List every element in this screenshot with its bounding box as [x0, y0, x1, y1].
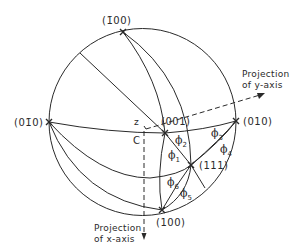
arc-bar100-001	[123, 32, 165, 133]
angle-label-phi3: ϕ3	[211, 128, 223, 144]
x-axis-label-line1: Projection	[94, 223, 142, 234]
pole-label-100: (100)	[156, 217, 185, 228]
pole-marker-bar100	[120, 29, 126, 35]
z-axis-stub	[144, 126, 146, 129]
phi-subscript: 6	[175, 183, 179, 191]
phi-symbol: ϕ	[211, 127, 219, 140]
pole-label-111: (111)	[199, 160, 228, 171]
angle-label-phi2: ϕ2	[175, 135, 187, 151]
y-axis-label-line2: of y-axis	[242, 80, 283, 91]
y-axis-label-line1: Projection	[242, 69, 290, 80]
z-axis-label: z	[134, 117, 139, 128]
angle-label-phi1: ϕ1	[168, 150, 180, 166]
x-axis-arrowhead	[142, 233, 147, 240]
phi-symbol: ϕ	[175, 134, 183, 147]
phi-symbol: ϕ	[167, 176, 175, 189]
pole-label-bar010: (01̄0)	[14, 117, 43, 128]
center-label: C	[133, 135, 140, 146]
angle-label-phi5: ϕ5	[180, 188, 192, 204]
arc-bar010-001-010	[49, 121, 236, 133]
phi-subscript: 4	[228, 150, 232, 158]
x-axis-label-line2: of x-axis	[94, 234, 135, 245]
phi-subscript: 2	[183, 141, 187, 149]
arc-001-100	[160, 133, 165, 210]
phi-symbol: ϕ	[180, 187, 188, 200]
pole-label-001: (001)	[161, 116, 190, 127]
pole-label-bar100: (1̄00)	[102, 15, 131, 26]
phi-subscript: 5	[188, 194, 192, 202]
phi-subscript: 1	[176, 156, 180, 164]
y-axis-arrowhead	[257, 93, 265, 99]
primitive-circle	[49, 29, 236, 216]
phi-symbol: ϕ	[220, 143, 228, 156]
pole-label-010: (010)	[243, 116, 272, 127]
arc-bar010-100	[49, 122, 162, 210]
angle-label-phi4: ϕ4	[220, 144, 232, 160]
phi-subscript: 3	[219, 134, 223, 142]
angle-label-phi6: ϕ6	[167, 177, 179, 193]
